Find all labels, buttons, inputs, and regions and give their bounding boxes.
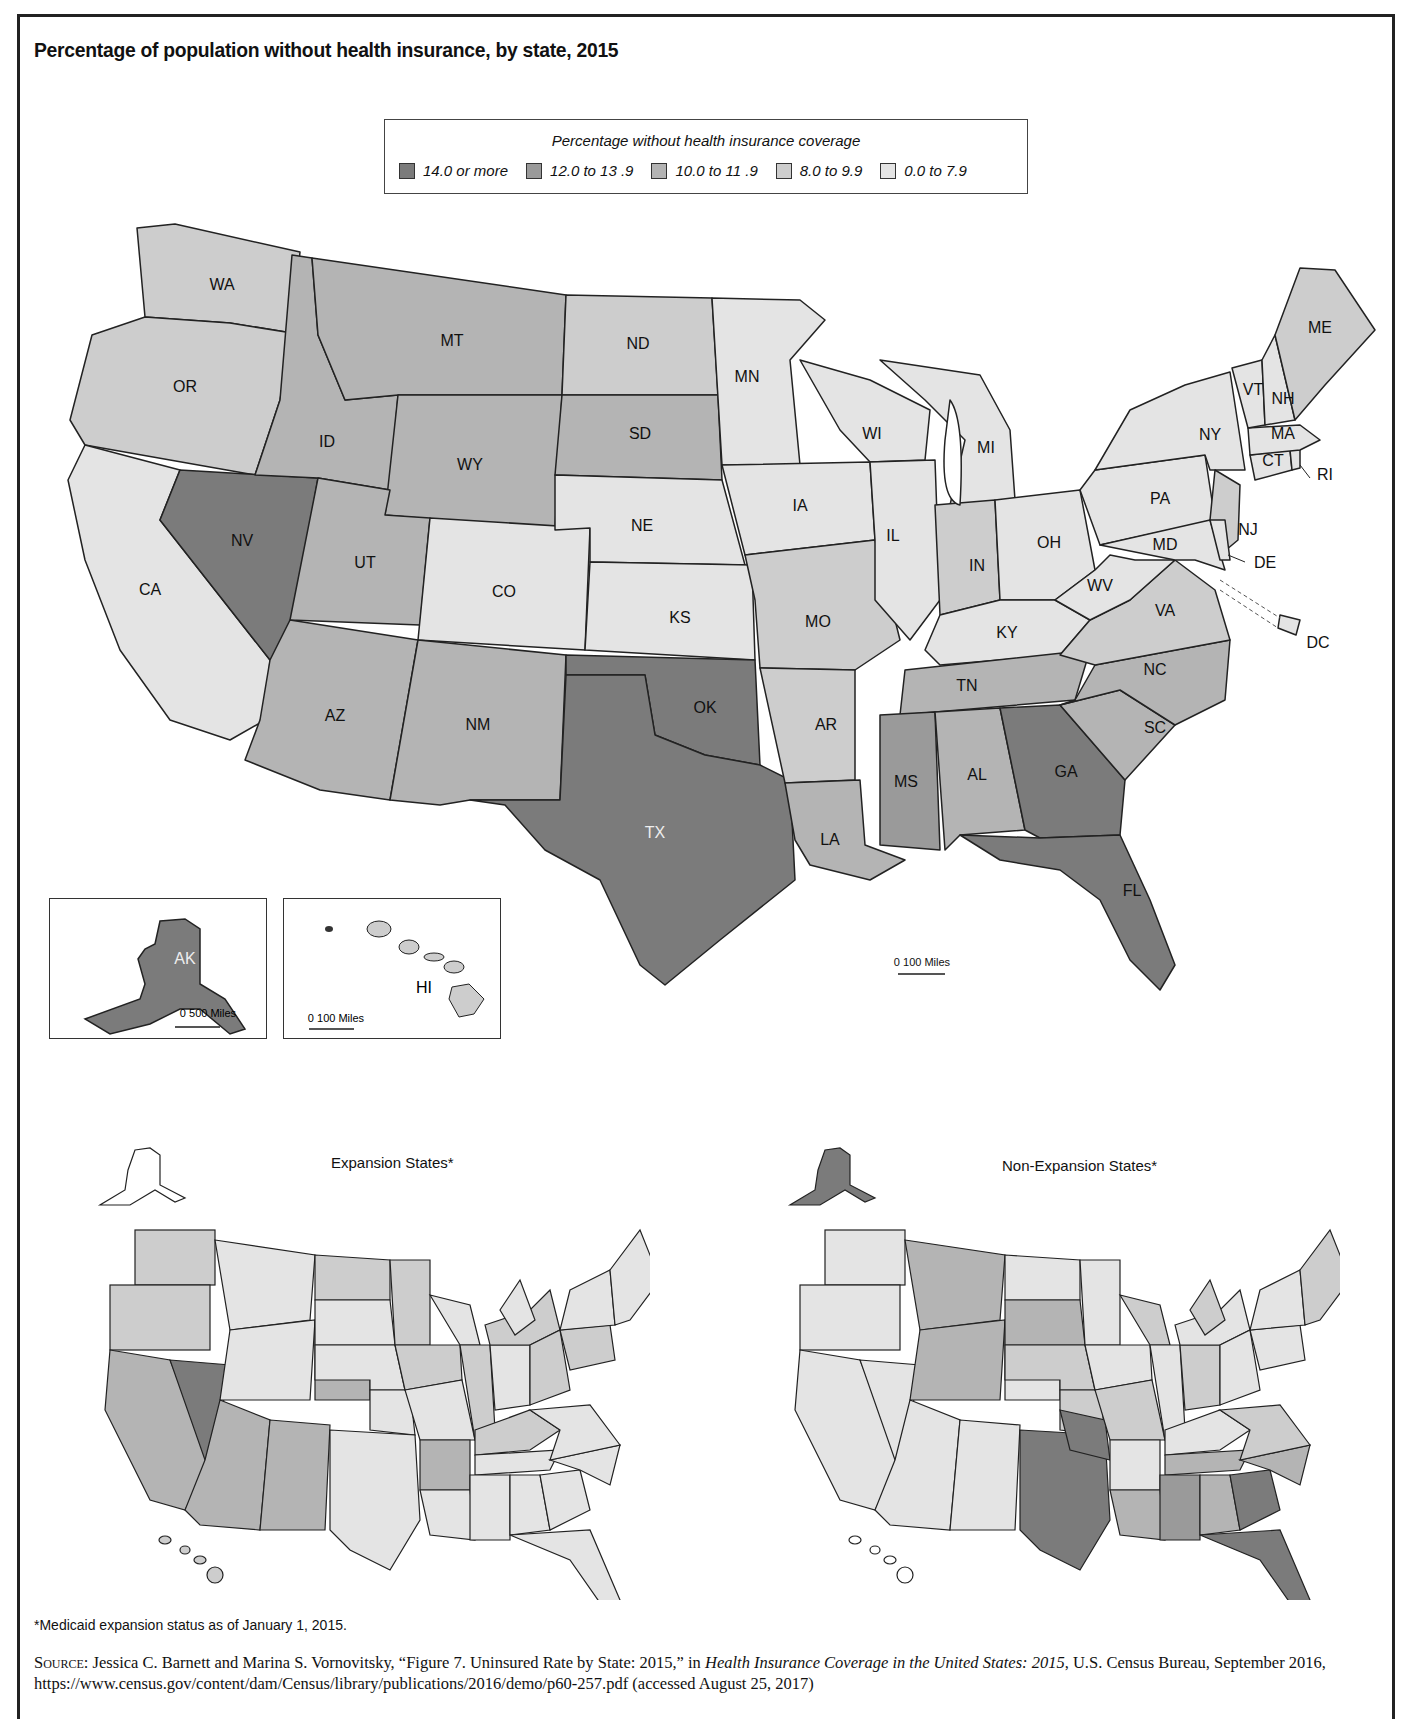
svg-text:CA: CA <box>139 581 162 598</box>
svg-text:MN: MN <box>735 368 760 385</box>
svg-text:MS: MS <box>894 773 918 790</box>
alaska-scale: 0 500 Miles <box>180 1007 237 1019</box>
source-publication: Health Insurance Coverage in the United … <box>705 1653 1065 1672</box>
svg-text:WA: WA <box>209 276 235 293</box>
svg-text:NV: NV <box>231 532 254 549</box>
svg-text:WY: WY <box>457 456 483 473</box>
svg-text:CT: CT <box>1262 452 1284 469</box>
svg-text:MO: MO <box>805 613 831 630</box>
svg-text:MA: MA <box>1271 425 1295 442</box>
non-expansion-map <box>780 1130 1340 1600</box>
svg-text:ND: ND <box>626 335 649 352</box>
main-us-map: WAORCA NVIDMT WYUTCO AZNMND SDNEKS OKTXM… <box>0 0 1409 1000</box>
hawaii-map: HI 0 100 Miles <box>284 899 502 1040</box>
svg-text:DE: DE <box>1254 554 1276 571</box>
alaska-inset: AK 0 500 Miles <box>49 898 267 1039</box>
state-fl <box>960 835 1175 990</box>
svg-text:TN: TN <box>956 677 977 694</box>
svg-text:MD: MD <box>1153 536 1178 553</box>
footnote: *Medicaid expansion status as of January… <box>34 1617 347 1633</box>
svg-text:NC: NC <box>1143 661 1166 678</box>
state-in <box>935 500 1000 615</box>
hawaii-scale: 0 100 Miles <box>308 1012 365 1024</box>
svg-text:IA: IA <box>792 497 807 514</box>
svg-text:WI: WI <box>862 425 882 442</box>
svg-text:IN: IN <box>969 557 985 574</box>
svg-text:NH: NH <box>1271 390 1294 407</box>
svg-text:GA: GA <box>1054 763 1077 780</box>
svg-text:OH: OH <box>1037 534 1061 551</box>
svg-text:OK: OK <box>693 699 716 716</box>
svg-text:SD: SD <box>629 425 651 442</box>
svg-text:IL: IL <box>886 527 899 544</box>
svg-text:AZ: AZ <box>325 707 346 724</box>
svg-text:CO: CO <box>492 583 516 600</box>
svg-text:KS: KS <box>669 609 690 626</box>
source-citation: Source: Jessica C. Barnett and Marina S.… <box>34 1652 1374 1694</box>
svg-text:DC: DC <box>1306 634 1329 651</box>
svg-text:MT: MT <box>440 332 463 349</box>
hawaii-inset: HI 0 100 Miles <box>283 898 501 1039</box>
state-mn <box>712 298 825 465</box>
state-dc <box>1278 615 1300 635</box>
expansion-map <box>90 1130 650 1600</box>
svg-text:NM: NM <box>466 716 491 733</box>
svg-text:AR: AR <box>815 716 837 733</box>
states <box>68 224 1375 990</box>
svg-text:NJ: NJ <box>1238 521 1258 538</box>
svg-text:NE: NE <box>631 517 653 534</box>
svg-text:WV: WV <box>1087 577 1113 594</box>
svg-text:PA: PA <box>1150 490 1170 507</box>
state-ri <box>1290 450 1300 470</box>
svg-text:ID: ID <box>319 433 335 450</box>
svg-text:RI: RI <box>1317 466 1333 483</box>
hawaii-label: HI <box>416 979 432 996</box>
svg-text:OR: OR <box>173 378 197 395</box>
state-mt <box>312 258 566 400</box>
svg-text:NY: NY <box>1199 426 1222 443</box>
svg-text:SC: SC <box>1144 719 1166 736</box>
svg-text:FL: FL <box>1123 882 1142 899</box>
svg-text:MI: MI <box>977 439 995 456</box>
svg-text:KY: KY <box>996 624 1018 641</box>
svg-text:VA: VA <box>1155 602 1175 619</box>
alaska-label: AK <box>174 950 196 967</box>
svg-text:LA: LA <box>820 831 840 848</box>
svg-text:ME: ME <box>1308 319 1332 336</box>
state-ar <box>760 668 855 783</box>
state-ny <box>1095 372 1245 470</box>
svg-text:TX: TX <box>645 824 666 841</box>
svg-text:AL: AL <box>967 766 987 783</box>
svg-text:0 100 Miles: 0 100 Miles <box>894 956 951 968</box>
alaska-map: AK 0 500 Miles <box>50 899 268 1040</box>
source-label: Source: <box>34 1653 88 1672</box>
svg-text:VT: VT <box>1243 381 1264 398</box>
source-text: Jessica C. Barnett and Marina S. Vornovi… <box>88 1653 705 1672</box>
svg-text:UT: UT <box>354 554 376 571</box>
